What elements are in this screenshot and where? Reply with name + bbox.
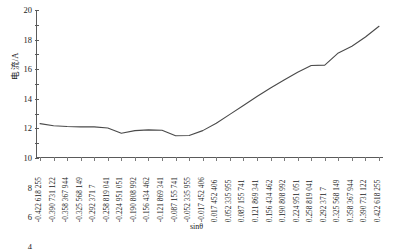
y-tick-label: 6 — [28, 213, 32, 222]
y-tick-label: 14 — [24, 95, 33, 104]
x-tick-label: -0.087 155 741 — [171, 177, 178, 222]
x-tick-label: 0.017 452 406 — [212, 179, 219, 222]
x-tick-label: -0.390 731 122 — [49, 177, 56, 222]
y-tick-label: 4 — [28, 243, 32, 249]
x-tick-label: -0.258 819 041 — [104, 177, 111, 222]
y-tick: 20 — [35, 10, 39, 11]
x-tick-label: 0.325 568 149 — [334, 179, 341, 222]
x-tick-label: 0.422 618 255 — [375, 179, 382, 222]
y-tick: 12 — [35, 69, 39, 70]
x-tick-label: -0.224 951 051 — [117, 177, 124, 222]
x-tick-label: 0.390 731 122 — [361, 179, 368, 222]
y-tick: 16 — [35, 40, 39, 41]
x-tick-label: 0.224 951 051 — [293, 179, 300, 222]
y-axis-title: 电流/A — [8, 36, 20, 96]
x-tick-label-group: -0.422 618 255-0.390 731 122-0.358 367 9… — [36, 160, 383, 222]
plot-area: 02468101214161820 — [36, 10, 383, 158]
x-tick-label: -0.156 434 462 — [144, 177, 151, 222]
y-tick: 10 — [35, 84, 39, 85]
y-tick-label: 10 — [24, 154, 33, 163]
y-tick: 14 — [35, 54, 39, 55]
x-tick-label: 0.156 434 462 — [266, 179, 273, 222]
x-tick-label: -0.017 452 406 — [199, 177, 206, 222]
y-tick: 18 — [35, 25, 39, 26]
x-tick-label: 0.190 808 992 — [280, 179, 287, 222]
x-tick-label: -0.422 618 255 — [36, 177, 43, 222]
x-axis-title-text: sinθ — [190, 222, 203, 231]
x-tick-label: -0.325 568 149 — [76, 177, 83, 222]
x-tick-label: 0.358 367 944 — [348, 179, 355, 222]
x-tick-label: -0.121 869 341 — [158, 177, 165, 222]
x-tick-label: -0.190 808 992 — [131, 177, 138, 222]
x-axis-title: sinθ — [0, 222, 393, 231]
y-tick: 8 — [35, 99, 39, 100]
x-axis-line — [36, 157, 383, 158]
figure-container: 电流/A 02468101214161820 -0.422 618 255-0.… — [0, 0, 393, 249]
y-tick-label: 12 — [24, 124, 33, 133]
y-tick-label: 20 — [24, 6, 33, 15]
x-tick-label: -0.292 371 7 — [90, 184, 97, 222]
y-tick: 4 — [35, 128, 39, 129]
x-tick-label: -0.052 335 955 — [185, 177, 192, 222]
y-tick-label: 8 — [28, 183, 32, 192]
x-tick-label: 0.087 155 741 — [239, 179, 246, 222]
y-tick-label: 16 — [24, 65, 33, 74]
x-tick-label: 0.258 819 041 — [307, 179, 314, 222]
x-tick-label: 0.052 335 955 — [226, 179, 233, 222]
y-tick: 6 — [35, 114, 39, 115]
x-tick-label: 0.292 371 7 — [321, 187, 328, 222]
y-tick: 0 — [35, 158, 39, 159]
x-tick-label: 0.121 869 341 — [253, 179, 260, 222]
y-tick: 2 — [35, 143, 39, 144]
x-tick-label: -0.358 367 944 — [63, 177, 70, 222]
y-tick-label: 18 — [24, 35, 33, 44]
data-line-series — [36, 10, 383, 158]
